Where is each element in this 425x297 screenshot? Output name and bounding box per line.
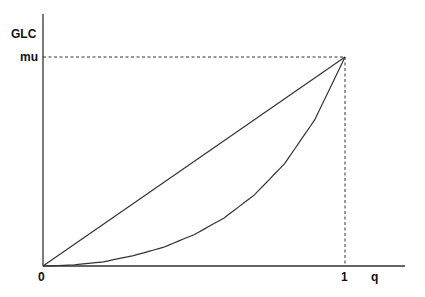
origin-label: 0 (38, 270, 45, 284)
x-tick-1-label: 1 (341, 270, 348, 284)
x-axis-label: q (371, 270, 378, 284)
chart-canvas (0, 0, 425, 297)
mu-label: mu (20, 50, 38, 64)
y-axis-label: GLC (11, 27, 36, 41)
